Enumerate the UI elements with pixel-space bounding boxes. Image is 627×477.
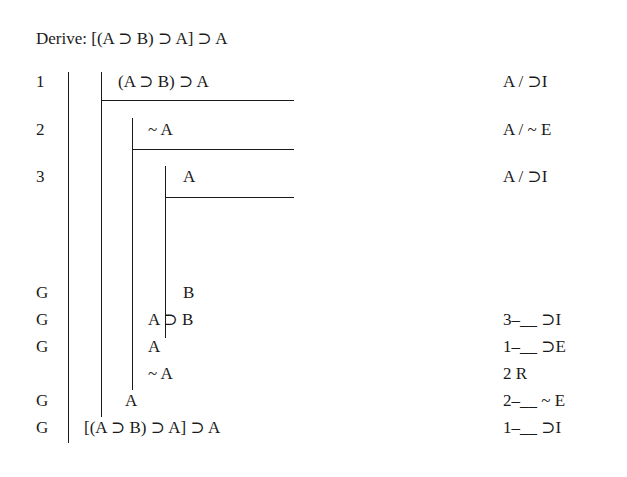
line-number: G [36,418,48,438]
scope-line-main [68,72,69,443]
assumption-bar-1 [101,100,294,101]
line-number: G [36,310,48,330]
justification: A / ⊃I [503,72,547,92]
formula: ~ A [148,120,173,140]
justification: A / ⊃I [503,167,547,187]
formula: B [183,283,194,303]
line-number: 3 [36,167,45,187]
justification: 1–__ ⊃E [503,337,566,357]
formula: [(A ⊃ B) ⊃ A] ⊃ A [84,418,220,438]
assumption-bar-3 [165,197,294,198]
formula: A [183,167,195,187]
line-number: 1 [36,72,45,92]
line-number: G [36,283,48,303]
justification: 1–__ ⊃I [503,418,561,438]
justification: A / ~ E [503,120,551,140]
formula: A ⊃ B [148,310,193,330]
line-number: G [36,337,48,357]
scope-line-1 [101,72,102,417]
line-number: G [36,391,48,411]
justification: 2 R [503,364,527,384]
formula: A [125,391,137,411]
formula: (A ⊃ B) ⊃ A [118,72,209,92]
formula: A [148,337,160,357]
justification: 3–__ ⊃I [503,310,561,330]
line-number: 2 [36,120,45,140]
derivation-title: Derive: [(A ⊃ B) ⊃ A] ⊃ A [36,29,227,49]
justification: 2–__ ~ E [503,391,565,411]
formula: ~ A [148,364,173,384]
scope-line-2 [132,118,133,390]
assumption-bar-2 [132,149,294,150]
